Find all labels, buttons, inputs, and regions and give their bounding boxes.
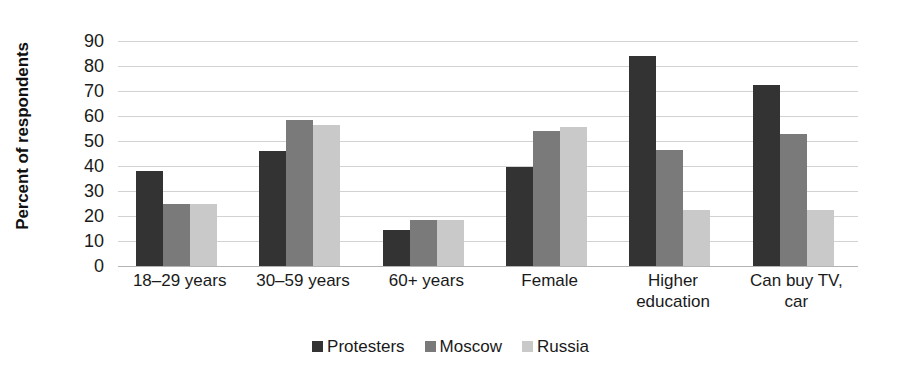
y-tick-label-60: 60 <box>84 107 104 125</box>
bar[interactable] <box>410 220 437 266</box>
bar[interactable] <box>780 134 807 267</box>
bar[interactable] <box>656 150 683 266</box>
legend-label: Protesters <box>327 338 404 355</box>
gridline-0 <box>118 266 858 267</box>
y-tick-label-30: 30 <box>84 182 104 200</box>
category-label-line: 30–59 years <box>241 270 364 291</box>
bar-group-4 <box>506 41 587 266</box>
legend-item-3[interactable]: Russia <box>522 338 589 355</box>
chart-legend: ProtestersMoscowRussia <box>0 338 901 355</box>
category-label-1: 18–29 years <box>118 270 241 291</box>
y-tick-label-80: 80 <box>84 57 104 75</box>
legend-label: Russia <box>537 338 589 355</box>
category-label-6: Can buy TV,car <box>735 270 858 312</box>
bars-layer <box>118 41 858 266</box>
bar[interactable] <box>163 204 190 267</box>
y-tick-label-10: 10 <box>84 232 104 250</box>
legend-swatch-icon <box>425 341 436 352</box>
bar[interactable] <box>383 230 410 266</box>
category-label-line: education <box>611 291 734 312</box>
bar[interactable] <box>437 220 464 266</box>
category-label-line: Higher <box>611 270 734 291</box>
bar-group-6 <box>753 41 834 266</box>
bar[interactable] <box>313 125 340 266</box>
bar-group-2 <box>259 41 340 266</box>
category-label-2: 30–59 years <box>241 270 364 291</box>
y-tick-label-50: 50 <box>84 132 104 150</box>
x-axis-category-labels: 18–29 years30–59 years60+ yearsFemaleHig… <box>118 270 858 326</box>
y-tick-label-90: 90 <box>84 32 104 50</box>
category-label-line: Female <box>488 270 611 291</box>
bar[interactable] <box>533 131 560 266</box>
y-axis-title-text: Percent of respondents <box>13 42 33 230</box>
category-label-line: 18–29 years <box>118 270 241 291</box>
bar[interactable] <box>286 120 313 266</box>
bar-group-5 <box>629 41 710 266</box>
category-label-line: 60+ years <box>365 270 488 291</box>
bar[interactable] <box>683 210 710 266</box>
y-tick-label-0: 0 <box>94 257 104 275</box>
bar[interactable] <box>807 210 834 266</box>
bar-group-1 <box>136 41 217 266</box>
legend-label: Moscow <box>440 338 502 355</box>
legend-swatch-icon <box>312 341 323 352</box>
bar[interactable] <box>190 204 217 267</box>
category-label-4: Female <box>488 270 611 291</box>
bar-group-3 <box>383 41 464 266</box>
legend-item-2[interactable]: Moscow <box>425 338 502 355</box>
category-label-line: Can buy TV, <box>735 270 858 291</box>
bar[interactable] <box>506 167 533 266</box>
y-tick-label-20: 20 <box>84 207 104 225</box>
bar[interactable] <box>629 56 656 266</box>
y-axis-title: Percent of respondents <box>0 0 46 272</box>
bar-chart: Percent of respondents 90807060504030201… <box>0 0 901 368</box>
category-label-5: Highereducation <box>611 270 734 312</box>
y-axis-tick-labels: 9080706050403020100 <box>46 41 112 266</box>
category-label-line: car <box>735 291 858 312</box>
y-tick-label-40: 40 <box>84 157 104 175</box>
bar[interactable] <box>259 151 286 266</box>
category-label-3: 60+ years <box>365 270 488 291</box>
legend-item-1[interactable]: Protesters <box>312 338 404 355</box>
legend-swatch-icon <box>522 341 533 352</box>
bar[interactable] <box>560 127 587 266</box>
bar[interactable] <box>136 171 163 266</box>
bar[interactable] <box>753 85 780 266</box>
y-tick-label-70: 70 <box>84 82 104 100</box>
